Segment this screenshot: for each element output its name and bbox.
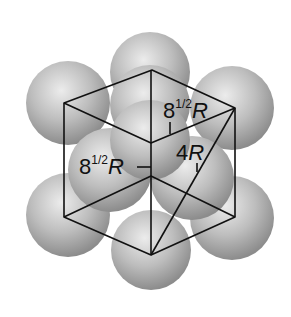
label-base: 8 [163,98,175,123]
label-face-diagonal-top: 81/2R [163,100,208,122]
label-exponent: 1/2 [175,97,192,111]
label-exponent: 1/2 [91,153,108,167]
label-variable: R [108,154,124,179]
label-variable: R [188,140,204,165]
label-edge-left: 81/2R [79,156,124,178]
fcc-unit-cell-diagram [0,0,291,317]
label-base: 8 [79,154,91,179]
label-base: 4 [176,140,188,165]
label-body-diagonal: 4R [176,142,204,164]
label-variable: R [192,98,208,123]
